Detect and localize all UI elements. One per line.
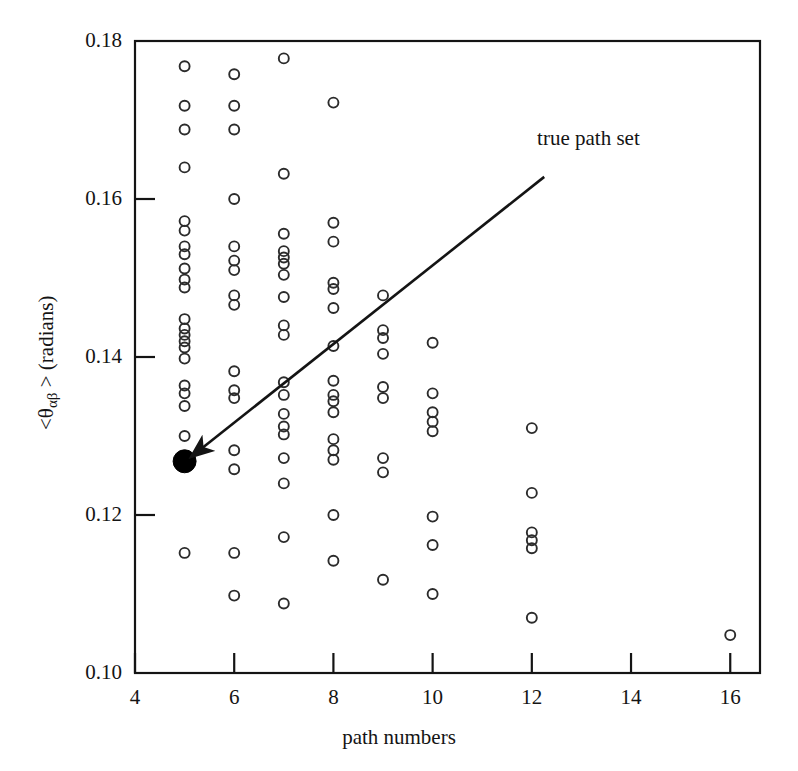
x-tick-label: 10 <box>403 685 463 710</box>
y-axis-title-subscript: αβ <box>44 392 60 408</box>
x-tick-label: 12 <box>502 685 562 710</box>
annotation-arrow <box>191 177 545 457</box>
y-tick-label: 0.12 <box>52 502 122 527</box>
x-tick-label: 16 <box>700 685 760 710</box>
axis-frame <box>135 41 760 673</box>
y-tick-label: 0.16 <box>52 186 122 211</box>
x-tick-label: 6 <box>204 685 264 710</box>
y-axis-title: <θαβ > (radians) <box>34 296 61 431</box>
y-axis-title-pre: <θ <box>34 408 58 430</box>
x-axis-ticks <box>135 653 730 673</box>
y-tick-label: 0.14 <box>52 344 122 369</box>
x-tick-label: 14 <box>601 685 661 710</box>
annotation-true-path-set-label: true path set <box>537 126 640 151</box>
y-axis-title-post: > (radians) <box>34 296 58 393</box>
x-axis-title: path numbers <box>0 725 798 750</box>
x-tick-label: 4 <box>105 685 165 710</box>
plot-canvas <box>0 0 798 771</box>
y-tick-label: 0.18 <box>52 28 122 53</box>
y-tick-label: 0.10 <box>52 660 122 685</box>
data-point-markers <box>173 53 735 640</box>
scatter-plot-figure: 0.180.160.140.120.10 46810121416 <θαβ > … <box>0 0 798 771</box>
x-tick-label: 8 <box>303 685 363 710</box>
y-axis-ticks <box>135 199 155 515</box>
